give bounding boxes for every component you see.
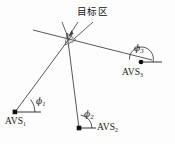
avs1-node [13, 110, 18, 115]
avs3-label-text: AVS [122, 67, 140, 77]
avs2-node [77, 126, 82, 131]
leader-line-right [74, 22, 93, 39]
phi2-label: ϕ2 [84, 110, 94, 119]
avs2-label-text: AVS [97, 122, 115, 132]
phi2-subscript: 2 [90, 114, 94, 120]
avs3-node [139, 60, 144, 64]
avs3-label-subscript: 3 [140, 72, 143, 78]
leader-arrowhead-left [69, 31, 73, 36]
phi3-label: ϕ3 [134, 44, 144, 53]
diagram-svg [0, 0, 175, 144]
avs2-label-subscript: 2 [115, 127, 118, 133]
avs3-label: AVS3 [122, 68, 143, 78]
avs1-angle-arc [31, 99, 35, 112]
phi1-label: ϕ1 [36, 97, 46, 106]
phi3-subscript: 3 [140, 48, 144, 54]
avs1-label: AVS1 [5, 117, 26, 127]
phi1-subscript: 1 [42, 101, 46, 107]
avs2-label: AVS2 [97, 123, 118, 133]
target-area-label: 目标区 [77, 7, 108, 17]
diagram-canvas: 目标区 AVS1 AVS2 AVS3 ϕ1 ϕ2 ϕ3 [0, 0, 175, 144]
avs1-label-subscript: 1 [23, 121, 26, 127]
bearing-line-avs2 [67, 33, 79, 128]
avs1-label-text: AVS [5, 116, 23, 126]
